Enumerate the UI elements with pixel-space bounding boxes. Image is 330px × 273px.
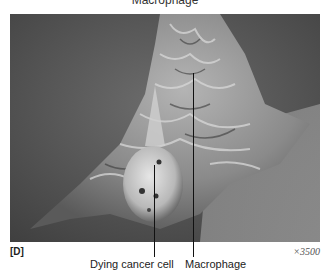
macrophage-leader-line xyxy=(193,73,194,257)
panel-letter: [D] xyxy=(10,246,24,257)
dying-cancer-cell-label: Dying cancer cell xyxy=(90,258,174,270)
dying-cell-leader-line xyxy=(154,165,155,257)
top-macrophage-label: Macrophage xyxy=(0,0,330,7)
electron-micrograph xyxy=(10,14,320,242)
magnification-label: ×3500 xyxy=(293,246,320,257)
macrophage-label: Macrophage xyxy=(185,258,246,270)
